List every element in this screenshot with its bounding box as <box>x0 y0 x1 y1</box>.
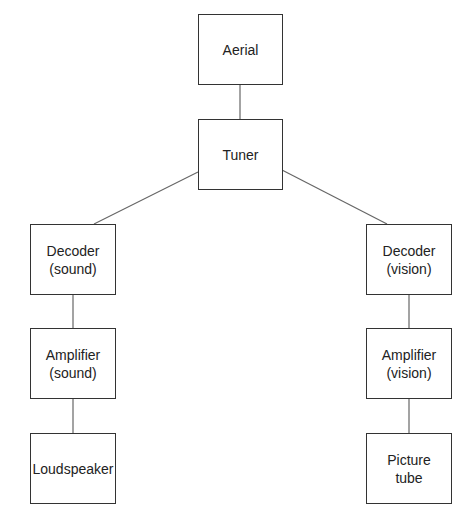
node-label: Decoder <box>383 242 436 260</box>
node-loudspeaker: Loudspeaker <box>30 433 116 504</box>
node-sublabel: (sound) <box>49 364 96 382</box>
node-label: Aerial <box>223 41 259 59</box>
node-sublabel: tube <box>395 469 422 487</box>
node-sublabel: (vision) <box>386 364 431 382</box>
edge-tuner-decoder-sound <box>94 172 198 224</box>
node-amplifier-vision: Amplifier (vision) <box>366 328 452 399</box>
node-sublabel: (vision) <box>386 260 431 278</box>
node-sublabel: (sound) <box>49 260 96 278</box>
node-decoder-sound: Decoder (sound) <box>30 224 116 295</box>
node-label: Amplifier <box>382 346 436 364</box>
node-label: Decoder <box>47 242 100 260</box>
node-label: Tuner <box>222 146 258 164</box>
node-amplifier-sound: Amplifier (sound) <box>30 328 116 399</box>
node-aerial: Aerial <box>198 14 283 85</box>
edge-tuner-decoder-vision <box>282 170 387 224</box>
node-label: Amplifier <box>46 346 100 364</box>
node-picture-tube: Picture tube <box>366 433 452 504</box>
node-tuner: Tuner <box>198 119 283 190</box>
node-label: Loudspeaker <box>33 460 114 478</box>
node-decoder-vision: Decoder (vision) <box>366 224 452 295</box>
node-label: Picture <box>387 451 431 469</box>
